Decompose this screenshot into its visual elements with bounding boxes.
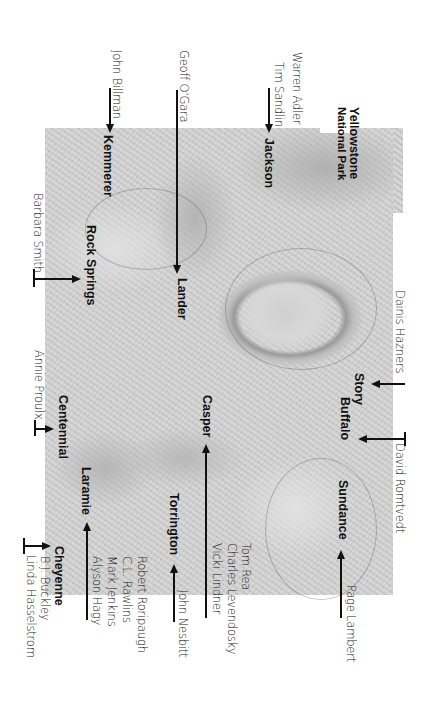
arrowhead-up-icon xyxy=(337,550,345,559)
place-cheyenne: Cheyenne xyxy=(53,546,66,606)
arrowhead-left-icon xyxy=(371,380,380,388)
author-dainis-hazners: Dainis Hazners xyxy=(394,290,406,373)
yellowstone-map-edge xyxy=(393,128,403,213)
author-geoff-ogara: Geoff O'Gara xyxy=(178,50,190,122)
river-line xyxy=(225,248,377,370)
place-yellowstone: Yellowstone xyxy=(348,107,361,179)
leader-line xyxy=(23,545,43,547)
leader-line xyxy=(33,278,73,280)
author-robert-roripaugh: Robert Roripaugh xyxy=(136,556,148,653)
author-vicki-lindner: Vicki Lindner xyxy=(211,543,223,614)
arrowhead-down-icon xyxy=(106,124,114,133)
place-lander: Lander xyxy=(176,278,189,320)
place-torrington: Torrington xyxy=(168,493,181,555)
leader-line xyxy=(268,88,270,125)
author-cl-rawlins: C.L. Rawlins xyxy=(121,556,133,623)
author-alyson-hagy: Alyson Hagy xyxy=(91,556,103,625)
author-bj-buckley: B.J. Buckley xyxy=(39,556,51,620)
arrowhead-down-icon xyxy=(173,265,181,274)
author-barbara-smith: Barbara Smith xyxy=(32,193,44,273)
arrowhead-right-icon xyxy=(45,425,54,433)
author-warren-adler: Warren Adler xyxy=(291,52,303,124)
leader-tick xyxy=(404,432,406,446)
author-tom-rea: Tom Rea xyxy=(240,543,252,590)
arrowhead-right-icon xyxy=(72,275,81,283)
leader-line xyxy=(379,383,405,385)
leader-line xyxy=(109,88,111,125)
author-page-lambert: Page Lambert xyxy=(345,585,357,662)
place-buffalo: Buffalo xyxy=(339,397,352,440)
leader-line xyxy=(205,452,207,618)
arrowhead-right-icon xyxy=(42,542,51,550)
place-story: Story xyxy=(353,373,366,405)
place-kemmerer: Kemmerer xyxy=(102,135,115,197)
river-line xyxy=(265,458,377,600)
author-david-romtvedt: David Romtvedt xyxy=(394,443,406,533)
river-line xyxy=(85,188,207,270)
place-laramie: Laramie xyxy=(80,467,93,515)
leader-line xyxy=(86,530,88,620)
arrowhead-up-icon xyxy=(202,444,210,453)
arrowhead-down-icon xyxy=(265,124,273,133)
arrowhead-left-icon xyxy=(358,435,367,443)
place-rock-springs: Rock Springs xyxy=(85,225,98,306)
author-annie-proulx: Annie Proulx xyxy=(33,350,45,420)
author-tim-sandlin: Tim Sandlin xyxy=(273,62,285,127)
place-yellowstone-np: National Park xyxy=(336,107,348,181)
leader-line xyxy=(176,90,178,265)
place-jackson: Jackson xyxy=(263,138,276,188)
leader-line xyxy=(173,572,175,622)
arrowhead-up-icon xyxy=(83,522,91,531)
place-casper: Casper xyxy=(201,395,214,437)
author-mark-jenkins: Mark Jenkins xyxy=(106,556,118,627)
author-john-nesbitt: John Nesbitt xyxy=(177,590,189,657)
leader-line xyxy=(340,558,342,618)
leader-line xyxy=(366,438,406,440)
arrowhead-up-icon xyxy=(170,564,178,573)
place-centennial: Centennial xyxy=(57,395,70,459)
author-john-billman: John Billman xyxy=(111,50,123,119)
place-sundance: Sundance xyxy=(337,480,350,540)
author-linda-hasselstrom: Linda Hasselstrom xyxy=(25,555,37,658)
author-charles-levendosky: Charles Levendosky xyxy=(226,543,238,654)
